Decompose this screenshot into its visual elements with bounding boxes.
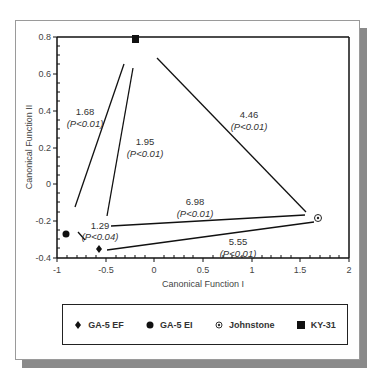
- x-tick: 0.5: [197, 265, 210, 275]
- legend-item-johnstone: Johnstone: [215, 320, 275, 330]
- x-tick: -0.5: [98, 265, 114, 275]
- annotation-value: 1.29: [91, 220, 110, 231]
- line-5-55: [107, 222, 314, 250]
- x-tick-labels: -1 -0.5 0 0.5 1 1.5 2: [53, 265, 352, 275]
- x-tick: 1.5: [294, 265, 307, 275]
- legend-label: Johnstone: [229, 320, 275, 330]
- distance-lines: [75, 58, 314, 250]
- legend-item-ky31: KY-31: [297, 320, 336, 330]
- square-icon: [132, 35, 139, 43]
- circled-dot-icon: [215, 321, 223, 329]
- annotation-value: 1.68: [76, 106, 95, 117]
- annotation-p: (P<0.01): [177, 208, 214, 219]
- y-tick: 0: [46, 179, 51, 189]
- annotation-p: (P<0.01): [220, 248, 257, 259]
- legend-item-ga5ei: GA-5 EI: [146, 320, 193, 330]
- x-tick: 1: [249, 265, 254, 275]
- x-axis-label: Canonical Function I: [162, 279, 244, 289]
- y-tick: 0.2: [38, 143, 51, 153]
- x-tick: -1: [53, 265, 61, 275]
- square-icon: [297, 321, 305, 329]
- annotation-p: (P<0.01): [67, 118, 104, 129]
- y-tick: 0.6: [38, 69, 51, 79]
- legend-label: KY-31: [311, 320, 336, 330]
- legend: GA-5 EF GA-5 EI Johnstone KY-31: [62, 304, 348, 345]
- annotation-value: 6.98: [186, 196, 205, 207]
- y-tick-labels: 0.8 0.6 0.4 0.2 0 -0.2 -0.4: [35, 32, 51, 263]
- annotation-value: 4.46: [240, 109, 259, 120]
- line-4-46: [157, 58, 306, 212]
- legend-item-ga5ef: GA-5 EF: [74, 320, 124, 330]
- y-tick: 0.8: [38, 32, 51, 42]
- annotation-value: 5.55: [229, 236, 248, 247]
- y-axis-label: Canonical Function II: [24, 105, 34, 190]
- diamond-icon: [96, 245, 102, 253]
- annotation-p: (P<0.01): [127, 148, 164, 159]
- circle-icon: [146, 321, 154, 329]
- annotation-value: 1.95: [136, 136, 155, 147]
- y-tick: -0.2: [35, 216, 51, 226]
- line-1-95: [107, 68, 133, 216]
- line-1-68: [75, 64, 124, 207]
- diamond-icon: [74, 321, 82, 329]
- legend-label: GA-5 EF: [88, 320, 124, 330]
- y-tick: -0.4: [35, 253, 51, 263]
- x-tick: 2: [346, 265, 351, 275]
- legend-label: GA-5 EI: [160, 320, 193, 330]
- annotation-p: (P<0.04): [82, 231, 119, 242]
- x-tick: 0: [151, 265, 156, 275]
- circle-icon: [63, 231, 70, 238]
- y-tick: 0.4: [38, 106, 51, 116]
- annotations: 1.68 (P<0.01) 1.95 (P<0.01) 4.46 (P<0.01…: [67, 106, 268, 259]
- annotation-p: (P<0.01): [231, 121, 268, 132]
